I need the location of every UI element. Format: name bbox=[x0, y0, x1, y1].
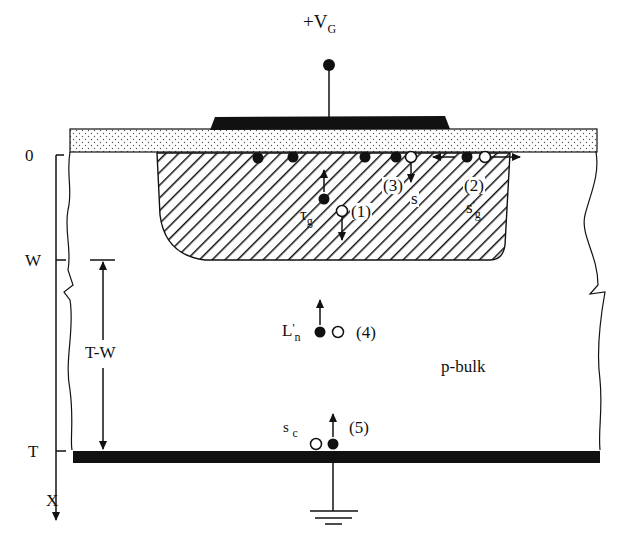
hole-3 bbox=[406, 152, 417, 163]
diagram-canvas bbox=[0, 0, 622, 547]
mechanism-1-label: (1) bbox=[350, 203, 372, 220]
mechanism-4-label: (4) bbox=[356, 324, 376, 341]
electron-5 bbox=[328, 439, 339, 450]
electron-4 bbox=[315, 327, 326, 338]
oxide-layer bbox=[70, 129, 597, 152]
depletion-region bbox=[157, 153, 510, 260]
mechanism-3-label: (3) bbox=[382, 177, 404, 194]
hole-5 bbox=[311, 439, 322, 450]
hole-4 bbox=[333, 327, 344, 338]
back-contact bbox=[73, 451, 600, 463]
depth-axis bbox=[56, 155, 66, 520]
s-c-label: s c bbox=[283, 420, 298, 435]
axis-direction-label: X bbox=[46, 492, 58, 509]
mechanism-5-label: (5) bbox=[349, 419, 369, 436]
s-prime-g-label: s'g bbox=[466, 199, 481, 216]
mechanism-2-label: (2) bbox=[463, 177, 485, 194]
gate-voltage-label: +VG bbox=[303, 12, 336, 31]
s-label: s bbox=[410, 190, 419, 207]
bulk-left-break bbox=[64, 152, 73, 450]
mos-diagram: +VG 0 W T X T-W τg (1) (3) s (2) s'g L'n… bbox=[0, 0, 622, 547]
p-bulk-label: p-bulk bbox=[441, 358, 485, 375]
l-prime-n-label: L'n bbox=[282, 322, 301, 339]
mechanism-4-pair bbox=[315, 300, 344, 338]
bulk-right-break bbox=[584, 152, 605, 450]
mechanism-5-pair bbox=[311, 414, 339, 450]
electron-1 bbox=[319, 194, 330, 205]
axis-label-0: 0 bbox=[25, 147, 34, 164]
metal-gate bbox=[210, 116, 450, 130]
gate-terminal bbox=[323, 59, 335, 118]
t-minus-w-label: T-W bbox=[84, 344, 117, 361]
axis-label-w: W bbox=[25, 252, 41, 269]
hole-2 bbox=[480, 152, 491, 163]
axis-label-t: T bbox=[28, 443, 38, 460]
hole-1 bbox=[337, 206, 348, 217]
tau-g-label: τg bbox=[300, 206, 313, 223]
